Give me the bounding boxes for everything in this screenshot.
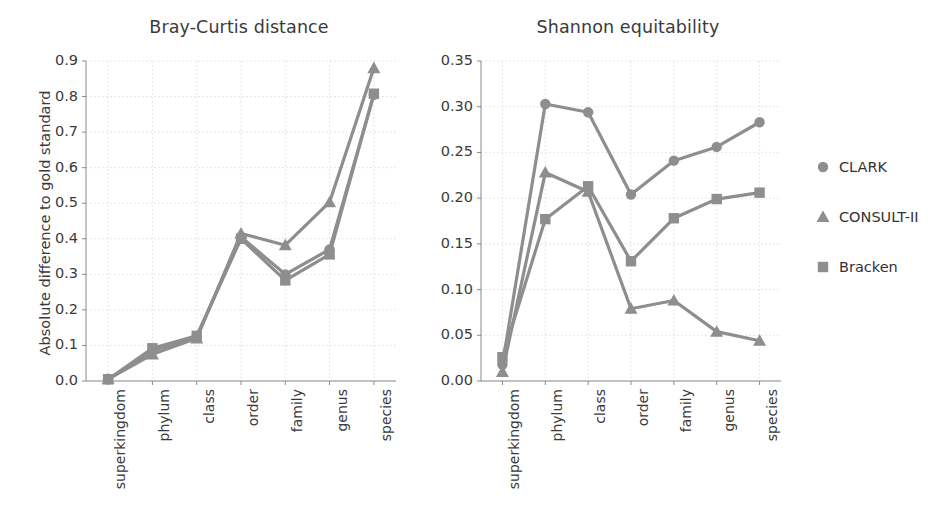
x-axis-tick-label: family bbox=[289, 389, 305, 432]
y-axis-label-left: Absolute difference to gold standard bbox=[37, 68, 53, 378]
y-axis-tick-label: 0.8 bbox=[55, 88, 85, 104]
chart-panel-shannon: Shannon equitability 0.000.050.100.150.2… bbox=[440, 0, 810, 529]
plot-area-left: 0.00.10.20.30.40.50.60.70.80.9superkingd… bbox=[85, 60, 395, 380]
data-point-triangle-marker bbox=[496, 365, 509, 377]
data-point-triangle-marker bbox=[323, 196, 336, 208]
y-axis-tick-label: 0.30 bbox=[441, 98, 480, 114]
data-point-circle-marker bbox=[583, 107, 593, 117]
y-axis-tick-label: 0.0 bbox=[55, 372, 85, 388]
data-point-square-marker bbox=[497, 352, 507, 362]
data-point-circle-marker bbox=[626, 189, 636, 199]
data-point-triangle-marker bbox=[539, 166, 552, 178]
x-axis-tick-label: phylum bbox=[549, 389, 565, 441]
data-point-circle-marker bbox=[818, 161, 828, 171]
y-axis-tick-label: 0.1 bbox=[55, 336, 85, 352]
data-point-square-marker bbox=[712, 194, 722, 204]
legend-item-clark[interactable]: CLARK bbox=[815, 156, 949, 177]
data-point-triangle-marker bbox=[367, 62, 380, 74]
y-axis-tick-label: 0.05 bbox=[441, 326, 480, 342]
y-axis-tick-label: 0.5 bbox=[55, 194, 85, 210]
triangle-legend-marker-icon bbox=[815, 209, 831, 225]
data-point-square-marker bbox=[236, 234, 246, 244]
x-axis-tick-label: phylum bbox=[156, 389, 172, 441]
x-axis-tick-label: order bbox=[245, 389, 261, 426]
chart-title-right: Shannon equitability bbox=[440, 17, 810, 37]
data-point-square-marker bbox=[754, 187, 764, 197]
y-axis-tick-label: 0.6 bbox=[55, 159, 85, 175]
data-point-circle-marker bbox=[669, 155, 679, 165]
y-axis-tick-label: 0.20 bbox=[441, 189, 480, 205]
x-axis-tick-label: species bbox=[764, 389, 780, 441]
series-line-consult-ii bbox=[108, 68, 374, 379]
data-point-square-marker bbox=[147, 343, 157, 353]
y-axis-tick-label: 0.00 bbox=[441, 372, 480, 388]
data-point-square-marker bbox=[626, 256, 636, 266]
figure-root: Bray-Curtis distance Absolute difference… bbox=[0, 0, 949, 529]
y-axis-tick-label: 0.7 bbox=[55, 123, 85, 139]
data-point-triangle-marker bbox=[817, 210, 830, 222]
x-axis-tick-label: class bbox=[592, 389, 608, 424]
data-point-square-marker bbox=[818, 261, 828, 271]
legend-item-label: CONSULT-II bbox=[839, 209, 919, 225]
legend-item-consult-ii[interactable]: CONSULT-II bbox=[815, 206, 949, 227]
data-point-circle-marker bbox=[540, 99, 550, 109]
data-point-square-marker bbox=[669, 213, 679, 223]
x-axis-tick-label: superkingdom bbox=[112, 389, 128, 489]
data-point-square-marker bbox=[369, 89, 379, 99]
x-axis-tick-label: family bbox=[678, 389, 694, 432]
circle-legend-marker-icon bbox=[815, 159, 831, 175]
chart-title-left: Bray-Curtis distance bbox=[0, 17, 440, 37]
x-axis-tick-label: genus bbox=[334, 389, 350, 432]
plot-area-right: 0.000.050.100.150.200.250.300.35superkin… bbox=[480, 60, 780, 380]
x-axis-tick-label: genus bbox=[721, 389, 737, 432]
x-axis-tick-label: superkingdom bbox=[506, 389, 522, 489]
y-axis-tick-label: 0.9 bbox=[55, 52, 85, 68]
chart-panel-bray-curtis: Bray-Curtis distance Absolute difference… bbox=[0, 0, 440, 529]
y-axis-tick-label: 0.2 bbox=[55, 301, 85, 317]
x-axis-tick-label: species bbox=[378, 389, 394, 441]
y-axis-tick-label: 0.4 bbox=[55, 230, 85, 246]
legend: CLARKCONSULT-IIBracken bbox=[815, 156, 949, 306]
square-legend-marker-icon bbox=[815, 259, 831, 275]
data-point-square-marker bbox=[324, 249, 334, 259]
legend-item-label: Bracken bbox=[839, 259, 898, 275]
y-axis-tick-label: 0.25 bbox=[441, 143, 480, 159]
y-axis-tick-label: 0.3 bbox=[55, 265, 85, 281]
y-axis-tick-label: 0.35 bbox=[441, 52, 480, 68]
chart-svg bbox=[480, 60, 782, 382]
y-axis-tick-label: 0.15 bbox=[441, 235, 480, 251]
x-axis-tick-label: order bbox=[635, 389, 651, 426]
data-point-square-marker bbox=[103, 374, 113, 384]
data-point-square-marker bbox=[280, 275, 290, 285]
data-point-circle-marker bbox=[754, 117, 764, 127]
data-point-square-marker bbox=[540, 214, 550, 224]
data-point-square-marker bbox=[583, 181, 593, 191]
chart-svg bbox=[85, 60, 397, 382]
data-point-square-marker bbox=[192, 331, 202, 341]
y-axis-tick-label: 0.10 bbox=[441, 281, 480, 297]
legend-item-bracken[interactable]: Bracken bbox=[815, 256, 949, 277]
data-point-circle-marker bbox=[712, 142, 722, 152]
legend-item-label: CLARK bbox=[839, 159, 887, 175]
x-axis-tick-label: class bbox=[201, 389, 217, 424]
